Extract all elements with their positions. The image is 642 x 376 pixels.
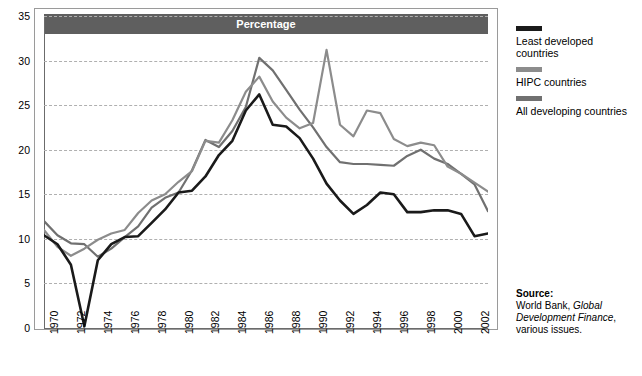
- series-lines: [44, 16, 488, 328]
- series-line: [44, 94, 488, 326]
- y-tick-label: 25: [0, 99, 30, 111]
- y-tick-label: 20: [0, 144, 30, 156]
- legend-label: Least developed countries: [516, 35, 636, 59]
- legend-label: All developing countries: [516, 105, 636, 117]
- x-tick-label: 1988: [290, 311, 302, 334]
- x-tick-label: 1992: [344, 311, 356, 334]
- legend-item: Least developed countries: [516, 26, 636, 59]
- legend-item: HIPC countries: [516, 67, 636, 88]
- source-text-em-2: Development Finance: [516, 312, 613, 323]
- legend-item: All developing countries: [516, 96, 636, 117]
- y-tick-label: 10: [0, 233, 30, 245]
- x-tick-label: 1986: [263, 311, 275, 334]
- legend-swatch: [516, 26, 542, 31]
- x-tick-label: 1974: [102, 311, 114, 334]
- source-text-em-1: Global: [573, 300, 602, 311]
- x-tick-label: 1976: [129, 311, 141, 334]
- y-tick-label: 35: [0, 10, 30, 22]
- plot-inner: [44, 16, 488, 328]
- x-tick-label: 1996: [398, 311, 410, 334]
- x-tick-label: 2002: [479, 311, 491, 334]
- x-tick-label: 1990: [317, 311, 329, 334]
- x-tick-label: 1982: [209, 311, 221, 334]
- x-tick-label: 1994: [371, 311, 383, 334]
- source-text-1: World Bank,: [516, 300, 573, 311]
- y-tick-label: 15: [0, 188, 30, 200]
- x-tick-label: 1998: [425, 311, 437, 334]
- source-heading: Source:: [516, 288, 638, 300]
- x-tick-label: 1978: [156, 311, 168, 334]
- y-tick-label: 30: [0, 55, 30, 67]
- chart-figure: Percentage 05101520253035 19701972197419…: [0, 0, 642, 376]
- chart-legend: Least developed countriesHIPC countriesA…: [516, 26, 636, 125]
- x-tick-label: 1972: [75, 311, 87, 334]
- legend-swatch: [516, 96, 542, 101]
- legend-swatch: [516, 67, 542, 72]
- plot-area: [44, 16, 488, 328]
- x-tick-label: 1980: [183, 311, 195, 334]
- x-tick-label: 1984: [236, 311, 248, 334]
- source-text-comma: ,: [613, 312, 616, 323]
- series-line: [44, 50, 488, 256]
- source-text-3: various issues.: [516, 324, 582, 335]
- x-tick-label: 1970: [48, 311, 60, 334]
- y-tick-label: 5: [0, 277, 30, 289]
- source-note: Source: World Bank, Global Development F…: [516, 288, 638, 336]
- y-tick-label: 0: [0, 322, 30, 334]
- legend-label: HIPC countries: [516, 76, 636, 88]
- x-tick-label: 2000: [452, 311, 464, 334]
